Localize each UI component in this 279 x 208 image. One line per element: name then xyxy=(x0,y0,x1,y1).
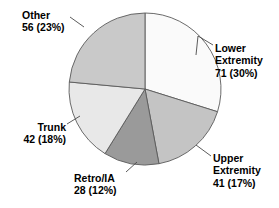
pie-label-upper-extremity-value: 41 (17%) xyxy=(213,177,261,189)
pie-label-other-value: 56 (23%) xyxy=(22,21,65,33)
pie-label-upper-extremity-line1: Upper xyxy=(213,152,261,164)
leader-line-upper-extremity xyxy=(196,145,211,156)
pie-label-lower-extremity-line1: Lower xyxy=(215,42,263,54)
pie-label-retro-ia: Retro/IA 28 (12%) xyxy=(74,172,117,197)
leader-line-other xyxy=(70,17,84,27)
pie-label-lower-extremity-line2: Extremity xyxy=(215,54,263,66)
pie-chart-figure: Lower Extremity 71 (30%) Upper Extremity… xyxy=(0,0,279,208)
pie-label-trunk-value: 42 (18%) xyxy=(4,133,66,145)
pie-label-retro-ia-value: 28 (12%) xyxy=(74,184,117,196)
pie-label-trunk: Trunk 42 (18%) xyxy=(4,121,66,146)
pie-label-other: Other 56 (23%) xyxy=(22,9,65,34)
pie-label-lower-extremity-value: 71 (30%) xyxy=(215,67,263,79)
pie-label-lower-extremity: Lower Extremity 71 (30%) xyxy=(215,42,263,79)
pie-label-trunk-line1: Trunk xyxy=(4,121,66,133)
pie-label-retro-ia-line1: Retro/IA xyxy=(74,172,117,184)
pie-label-upper-extremity-line2: Extremity xyxy=(213,164,261,176)
pie-label-upper-extremity: Upper Extremity 41 (17%) xyxy=(213,152,261,189)
pie-label-other-line1: Other xyxy=(22,9,65,21)
